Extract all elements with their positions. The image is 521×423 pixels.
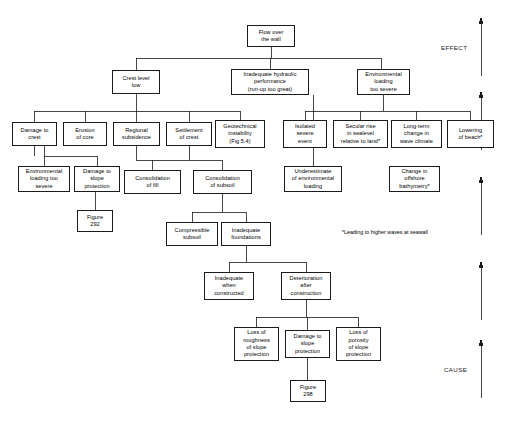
node-erosion-of-core[interactable]: Erosion of core: [63, 122, 107, 146]
node-environmental-loading-too-severe-top[interactable]: Environmental loading too severe: [357, 69, 410, 95]
node-underestimate-of-environmental-loading[interactable]: Underestimate of environmental loading: [284, 166, 342, 192]
node-figure-292[interactable]: Figure 292: [77, 210, 113, 232]
node-loss-of-roughness-of-slope-protection[interactable]: Loss of roughness of slope protection: [234, 327, 279, 361]
node-deterioration-after-construction[interactable]: Deterioration after construction: [281, 272, 331, 300]
margin-arrow-effect-1: [478, 16, 483, 76]
fault-tree-diagram: Flow over the wall Crest level low Inade…: [0, 0, 521, 423]
margin-label-effect: EFFECT: [441, 44, 467, 51]
margin-label-cause: CAUSE: [444, 366, 467, 373]
node-geotechnical-instability[interactable]: Geotechnical instability (Fig 5.4): [215, 120, 265, 148]
node-damage-to-crest[interactable]: Damage to crest: [12, 122, 57, 146]
node-compressible-subsoil[interactable]: Compressible subsoil: [166, 222, 218, 246]
margin-arrow-cause-2: [478, 260, 483, 320]
node-environmental-loading-too-severe-lower[interactable]: Environmental loading too severe: [18, 166, 70, 192]
node-settlement-of-crest[interactable]: Settlement of crest: [166, 122, 212, 146]
node-loss-of-porosity-of-slope-protection[interactable]: Loss of porosity of slope protection: [336, 327, 381, 361]
node-regional-subsidence[interactable]: Regional subsidence: [113, 122, 160, 146]
node-lowering-of-beach[interactable]: Lowering of beach*: [447, 120, 494, 148]
node-inadequate-foundations[interactable]: Inadequate foundations: [221, 222, 271, 246]
node-secular-rise-in-sealevel[interactable]: Secular rise in sealevel relative to lan…: [333, 120, 388, 148]
margin-arrow-middle: [478, 175, 483, 235]
node-damage-to-slope-protection-lower[interactable]: Damage to slope protection: [285, 330, 330, 358]
node-inadequate-when-constructed[interactable]: Inadequate when constructed: [204, 272, 254, 300]
footnote-text: *Leading to higher waves at seawall: [342, 229, 428, 235]
margin-arrow-cause-1: [478, 338, 483, 398]
node-consolidation-of-subsoil[interactable]: Consolidation of subsoil: [193, 170, 252, 194]
node-change-in-offshore-bathymetry[interactable]: Change in offshore bathymetry*: [389, 166, 440, 192]
node-long-term-change-in-wave-climate[interactable]: Long-term change in wave climate: [391, 120, 442, 148]
node-inadequate-hydraulic-performance[interactable]: Inadequate hydraulic performance (run-up…: [231, 69, 309, 95]
node-consolidation-of-fill[interactable]: Consolidation of fill: [124, 170, 181, 194]
node-figure-298[interactable]: Figure 298: [290, 380, 326, 402]
node-flow-over-the-wall[interactable]: Flow over the wall: [247, 25, 295, 47]
node-crest-level-low[interactable]: Crest level low: [112, 70, 160, 94]
node-damage-to-slope-protection-upper[interactable]: Damage to slope protection: [74, 166, 120, 192]
node-isolated-severe-event[interactable]: Isolated severe event: [283, 120, 327, 148]
